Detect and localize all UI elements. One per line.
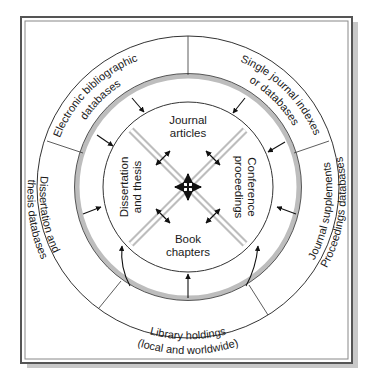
label-journal-articles-1: Journal <box>169 114 207 126</box>
research-sources-diagram: Journal articles Book chapters Dissertat… <box>0 0 375 385</box>
label-book-chapters-2: chapters <box>166 246 210 258</box>
label-conference-2: proceedings <box>233 156 245 219</box>
label-dissertation-2: and thesis <box>131 161 143 214</box>
label-dissertation-1: Dissertation <box>118 157 130 218</box>
label-journal-articles-2: articles <box>170 127 207 139</box>
label-book-chapters-1: Book <box>175 233 201 245</box>
label-conference-1: Conference <box>246 157 258 216</box>
